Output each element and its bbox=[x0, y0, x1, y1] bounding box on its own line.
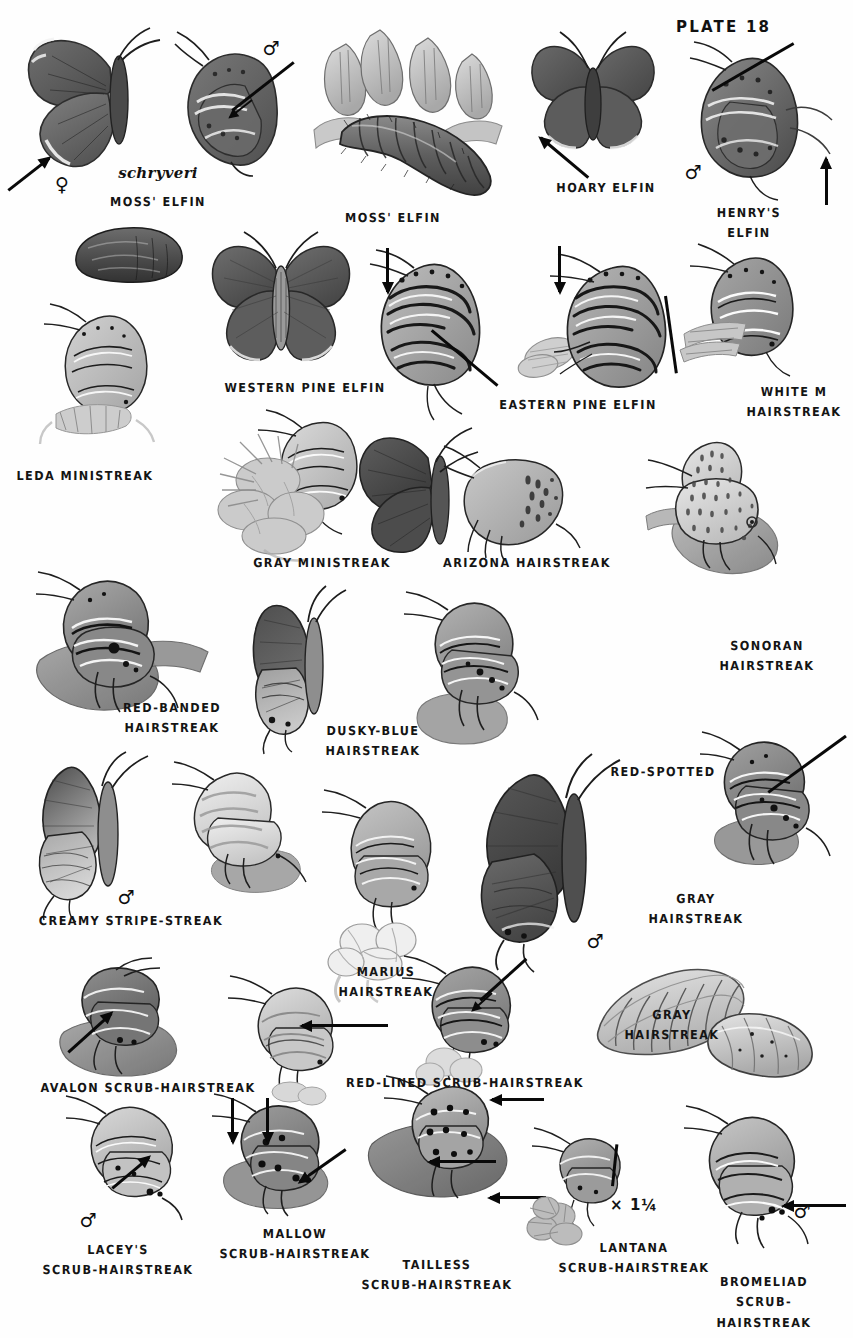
species-caption-moss-elfin-larva: MOSS' ELFIN bbox=[345, 208, 441, 228]
species-caption-moss-elfin-adult: MOSS' ELFIN bbox=[110, 192, 206, 212]
species-caption-henrys-elfin: HENRY'S ELFIN bbox=[697, 203, 801, 244]
species-caption-creamy-stripe-streak: CREAMY STRIPE-STREAK bbox=[39, 911, 223, 931]
plate-number: PLATE 18 bbox=[676, 18, 771, 36]
subspecies-label-schryveri: schryveri bbox=[118, 164, 198, 182]
chrysalis-dark bbox=[66, 226, 188, 288]
species-caption-mallow-scrub-hairstreak: MALLOW SCRUB-HAIRSTREAK bbox=[219, 1224, 370, 1265]
species-caption-avalon-scrub-hairstreak: AVALON SCRUB-HAIRSTREAK bbox=[40, 1078, 255, 1098]
scale-note: × 1¼ bbox=[610, 1196, 658, 1214]
sex-symbol-moss-elfin-female: ♀ bbox=[55, 175, 69, 194]
butterfly-gray-hairstreak-dorsal bbox=[468, 762, 668, 952]
species-caption-gray-ministreak: GRAY MINISTREAK bbox=[253, 553, 391, 573]
butterfly-bromeliad-scrub-hairstreak bbox=[676, 1118, 836, 1258]
species-caption-white-m-hairstreak: WHITE M HAIRSTREAK bbox=[747, 382, 842, 423]
species-caption-hoary-elfin: HOARY ELFIN bbox=[556, 178, 655, 198]
species-caption-red-lined-scrub-hairstreak: RED-LINED SCRUB-HAIRSTREAK bbox=[346, 1073, 584, 1093]
butterfly-lantana-scrub-hairstreak bbox=[524, 1138, 644, 1248]
species-caption-marius-hairstreak: MARIUS HAIRSTREAK bbox=[339, 962, 434, 1003]
species-caption-sonoran-hairstreak: SONORAN HAIRSTREAK bbox=[720, 636, 815, 677]
butterfly-mallow-scrub-hairstreak bbox=[212, 1106, 372, 1216]
sex-symbol-moss-elfin-male: ♂ bbox=[262, 39, 279, 58]
butterfly-arizona-hairstreak-ventral bbox=[444, 446, 594, 556]
species-caption-leda-ministreak: LEDA MINISTREAK bbox=[16, 466, 153, 486]
sex-symbol-gray-hairstreak-male: ♂ bbox=[586, 932, 603, 951]
species-caption-red-spotted: RED-SPOTTED bbox=[610, 762, 715, 782]
species-caption-laceys-scrub-hairstreak: LACEY'S SCRUB-HAIRSTREAK bbox=[42, 1240, 193, 1281]
species-caption-bromeliad-scrub-hairstreak: BROMELIAD SCRUB-HAIRSTREAK bbox=[717, 1272, 812, 1333]
butterfly-avalon-scrub-hairstreak bbox=[58, 968, 238, 1078]
species-caption-gray-hairstreak-larva: GRAY HAIRSTREAK bbox=[625, 1005, 720, 1046]
butterfly-western-pine-elfin-dorsal bbox=[206, 238, 356, 373]
field-guide-plate: PLATE 18 bbox=[0, 0, 853, 1338]
sex-symbol-creamy-stripe-male: ♂ bbox=[117, 888, 134, 907]
butterfly-sonoran-hairstreak bbox=[616, 442, 806, 602]
species-caption-gray-hairstreak-adult: GRAY HAIRSTREAK bbox=[649, 889, 744, 930]
species-caption-arizona-hairstreak: ARIZONA HAIRSTREAK bbox=[443, 553, 611, 573]
butterfly-red-spotted-ventral bbox=[700, 742, 850, 882]
species-caption-lantana-scrub-hairstreak: LANTANA SCRUB-HAIRSTREAK bbox=[558, 1238, 709, 1279]
species-caption-red-banded-hairstreak: RED-BANDED HAIRSTREAK bbox=[123, 698, 221, 739]
butterfly-henrys-elfin bbox=[690, 48, 840, 198]
species-caption-dusky-blue-hairstreak: DUSKY-BLUE HAIRSTREAK bbox=[326, 721, 421, 762]
butterfly-white-m-hairstreak bbox=[676, 248, 846, 378]
species-caption-western-pine-elfin: WESTERN PINE ELFIN bbox=[224, 378, 385, 398]
butterfly-leda-ministreak bbox=[36, 310, 176, 455]
species-caption-tailless-scrub-hairstreak: TAILLESS SCRUB-HAIRSTREAK bbox=[361, 1255, 512, 1296]
butterfly-creamy-stripe-streak-ventral bbox=[172, 770, 332, 900]
butterfly-creamy-stripe-streak-dorsal bbox=[24, 756, 184, 906]
species-caption-eastern-pine-elfin: EASTERN PINE ELFIN bbox=[499, 395, 656, 415]
sex-symbol-henrys-elfin-male: ♂ bbox=[684, 163, 701, 182]
sex-symbol-laceys-male: ♂ bbox=[79, 1211, 96, 1230]
sex-symbol-bromeliad-male: ♂ bbox=[793, 1202, 810, 1221]
butterfly-red-spotted-hairstreak bbox=[398, 598, 568, 758]
butterfly-eastern-pine-elfin bbox=[520, 262, 690, 402]
caterpillar-moss-elfin bbox=[296, 22, 516, 202]
